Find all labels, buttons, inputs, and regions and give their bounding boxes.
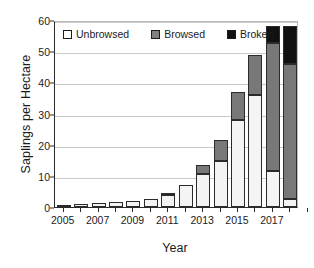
legend-item-broken: Broken [227, 28, 273, 40]
x-axis-tick-mark [254, 208, 255, 212]
legend-item-unbrowsed: Unbrowsed [63, 28, 129, 40]
x-axis-tick-label: 2015 [225, 214, 248, 226]
x-axis-tick-mark [115, 208, 116, 212]
x-axis-tick-mark [98, 208, 99, 212]
bar-segment-unbrowsed [126, 201, 140, 207]
bar-2018 [283, 26, 297, 207]
x-axis-tick-mark [80, 208, 81, 212]
legend-swatch-broken-icon [227, 30, 236, 39]
y-axis-tick-label: 40 [24, 77, 50, 89]
x-axis-tick-mark [167, 208, 168, 212]
x-axis-tick-label: 2009 [121, 214, 144, 226]
x-axis-tick-label: 2005 [51, 214, 74, 226]
legend-swatch-unbrowsed-icon [63, 30, 72, 39]
x-axis-tick-mark [237, 208, 238, 212]
bar-segment-browsed [196, 165, 210, 174]
bar-segment-unbrowsed [248, 95, 262, 207]
x-axis-tick-mark [272, 208, 273, 212]
bar-2010 [144, 199, 158, 207]
bar-segment-browsed [248, 55, 262, 95]
x-axis-tick-mark [202, 208, 203, 212]
legend-label: Unbrowsed [76, 28, 129, 40]
x-axis-title: Year [50, 241, 300, 255]
legend-item-browsed: Browsed [151, 28, 205, 40]
x-axis-tick-mark [132, 208, 133, 212]
bar-segment-browsed [231, 92, 245, 120]
y-axis-tick-label: 0 [24, 202, 50, 214]
chart-legend: UnbrowsedBrowsedBroken [63, 28, 273, 40]
bar-2006 [74, 204, 88, 207]
x-axis-tick-mark [150, 208, 151, 212]
y-axis-tick-label: 10 [24, 171, 50, 183]
sapling-density-bar-chart: Saplings per Hectare 0102030405060 20052… [0, 0, 314, 268]
x-axis-tick-mark [220, 208, 221, 212]
x-axis-tick-labels: 2005200720092011201320152017 [54, 208, 298, 232]
bar-segment-unbrowsed [109, 202, 123, 207]
bar-segment-unbrowsed [266, 171, 280, 207]
bar-segment-browsed [214, 140, 228, 161]
x-axis-tick-label: 2007 [86, 214, 109, 226]
bar-segment-broken [283, 26, 297, 63]
bar-segment-browsed [266, 43, 280, 171]
legend-label: Browsed [164, 28, 205, 40]
bar-2017 [266, 26, 280, 207]
legend-label: Broken [240, 28, 273, 40]
bar-group [55, 22, 297, 207]
bar-segment-browsed [161, 193, 175, 195]
bar-2013 [196, 165, 210, 207]
bar-segment-unbrowsed [57, 205, 71, 207]
bar-segment-unbrowsed [179, 185, 193, 207]
bar-segment-unbrowsed [283, 199, 297, 207]
x-axis-tick-mark [289, 208, 290, 212]
bar-segment-unbrowsed [161, 195, 175, 207]
bar-2014 [214, 140, 228, 207]
x-axis-tick-label: 2013 [190, 214, 213, 226]
y-axis-tick-label: 60 [24, 15, 50, 27]
bar-segment-unbrowsed [74, 204, 88, 207]
bar-segment-browsed [283, 64, 297, 200]
bar-2015 [231, 92, 245, 207]
x-axis-tick-mark [63, 208, 64, 212]
bar-2007 [92, 203, 106, 207]
bar-segment-unbrowsed [231, 120, 245, 207]
bar-2008 [109, 202, 123, 207]
bar-segment-unbrowsed [92, 203, 106, 207]
bar-segment-unbrowsed [196, 174, 210, 207]
x-axis-tick-mark [185, 208, 186, 212]
x-axis-tick-mark [307, 208, 308, 212]
bar-2016 [248, 55, 262, 207]
y-axis-tick-label: 30 [24, 109, 50, 121]
x-axis-tick-label: 2017 [260, 214, 283, 226]
y-axis-tick-labels: 0102030405060 [22, 21, 50, 208]
bar-segment-unbrowsed [214, 161, 228, 207]
x-axis-tick-label: 2011 [156, 214, 179, 226]
bar-2009 [126, 201, 140, 207]
y-axis-tick-label: 50 [24, 46, 50, 58]
y-axis-tick-label: 20 [24, 140, 50, 152]
bar-2005 [57, 205, 71, 207]
bar-2012 [179, 185, 193, 207]
bar-2011 [161, 194, 175, 207]
legend-swatch-browsed-icon [151, 30, 160, 39]
plot-area [54, 21, 298, 208]
bar-segment-unbrowsed [144, 199, 158, 207]
